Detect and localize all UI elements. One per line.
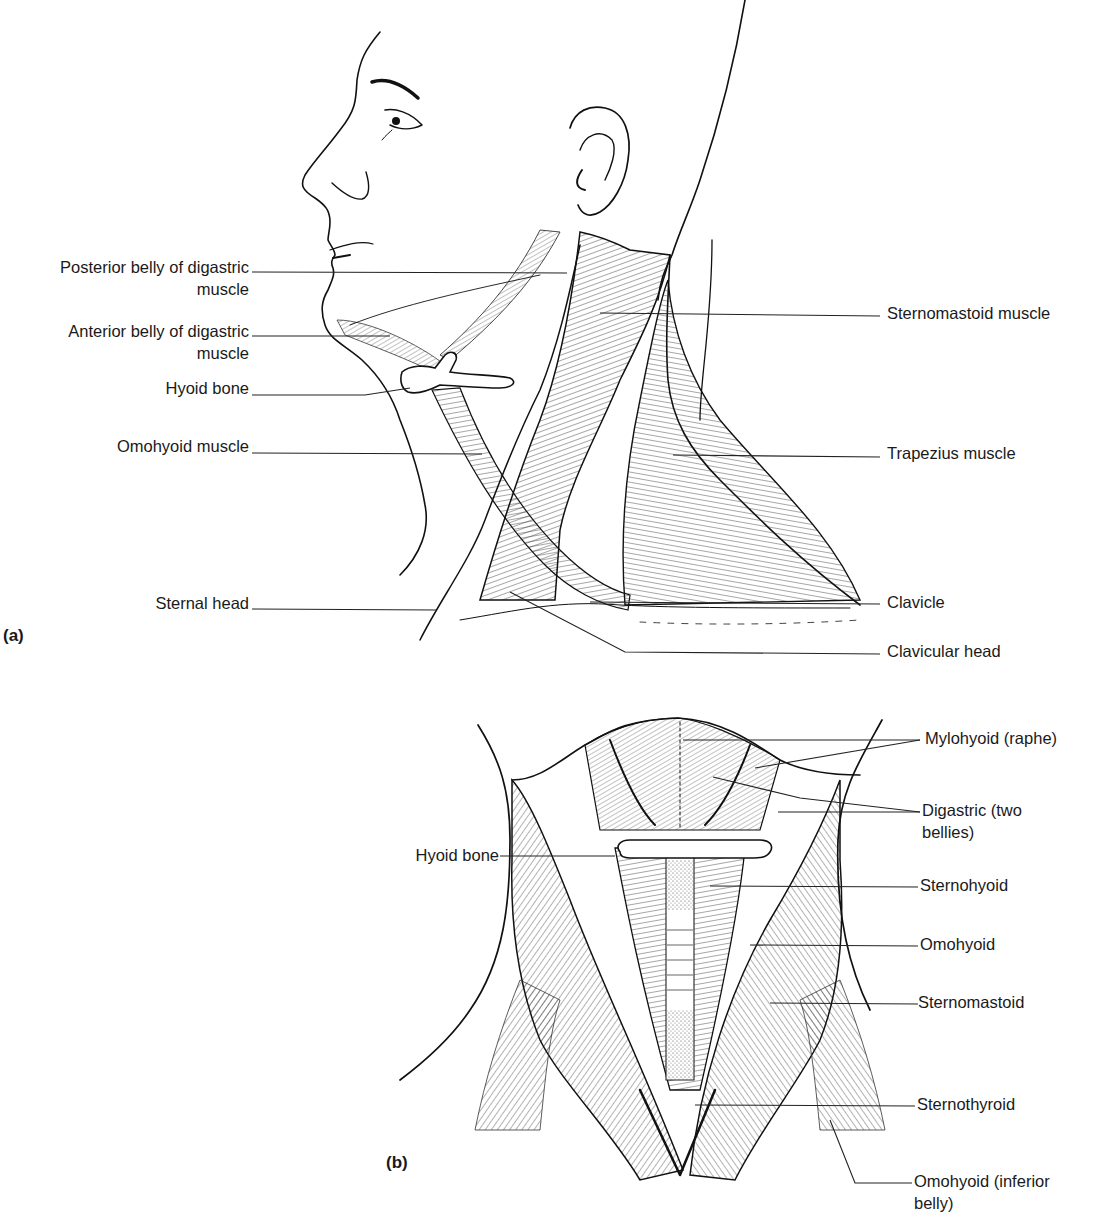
label-sternal-head: Sternal head [155,592,249,614]
label-line: Omohyoid [920,933,995,955]
label-sternomastoid-muscle: Sternomastoid muscle [887,302,1050,324]
label-line: Posterior belly of digastric [60,256,249,278]
label-hyoid-bone-b: Hyoid bone [416,844,499,866]
label-line: Clavicle [887,591,945,613]
label-line: Trapezius muscle [887,442,1016,464]
label-line: Clavicular head [887,640,1001,662]
label-line: Sternohyoid [920,874,1008,896]
label-line: bellies) [922,821,1022,843]
label-clavicle: Clavicle [887,591,945,613]
label-line: Hyoid bone [166,377,249,399]
label-line: Anterior belly of digastric [68,320,249,342]
label-anterior-digastric: Anterior belly of digastric muscle [68,320,249,364]
label-line: muscle [68,342,249,364]
label-line: Hyoid bone [416,844,499,866]
label-trapezius-muscle: Trapezius muscle [887,442,1016,464]
label-line: Sternomastoid [918,991,1024,1013]
label-sternomastoid: Sternomastoid [918,991,1024,1013]
label-line: Sternomastoid muscle [887,302,1050,324]
label-sternothyroid: Sternothyroid [917,1093,1015,1115]
label-line: Sternothyroid [917,1093,1015,1115]
label-hyoid-bone: Hyoid bone [166,377,249,399]
panel-a-drawing [302,0,860,640]
label-line: muscle [60,278,249,300]
label-sternohyoid: Sternohyoid [920,874,1008,896]
label-digastric: Digastric (two bellies) [922,799,1022,843]
label-omohyoid-inferior-belly: Omohyoid (inferior belly) [914,1170,1050,1214]
label-omohyoid-muscle: Omohyoid muscle [117,435,249,457]
label-line: Sternal head [155,592,249,614]
label-line: Omohyoid (inferior [914,1170,1050,1192]
label-line: Omohyoid muscle [117,435,249,457]
label-line: Mylohyoid (raphe) [925,727,1057,749]
label-line: Digastric (two [922,799,1022,821]
label-posterior-digastric: Posterior belly of digastric muscle [60,256,249,300]
label-mylohyoid: Mylohyoid (raphe) [925,727,1057,749]
panel-b-tag: (b) [386,1153,408,1173]
label-omohyoid: Omohyoid [920,933,995,955]
label-line: belly) [914,1192,1050,1214]
label-clavicular-head: Clavicular head [887,640,1001,662]
panel-b-drawing [400,718,885,1180]
panel-a-tag: (a) [3,626,24,646]
